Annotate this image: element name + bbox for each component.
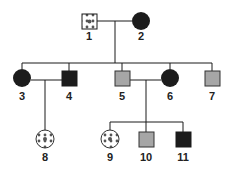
label-3: 3 [19, 90, 25, 102]
individual-1-male-patterned [82, 14, 97, 29]
individual-6-female-affected [161, 69, 179, 87]
mating-line-5-6 [129, 80, 161, 122]
sibship-line-gen3 [110, 122, 183, 132]
mating-line-3-4 [31, 80, 62, 130]
individual-9-female-patterned [101, 130, 119, 148]
individual-8-female-patterned [36, 130, 54, 148]
label-11: 11 [177, 151, 189, 163]
label-5: 5 [119, 90, 125, 102]
label-10: 10 [140, 151, 152, 163]
label-8: 8 [42, 151, 48, 163]
label-4: 4 [66, 90, 73, 102]
label-9: 9 [107, 151, 113, 163]
pedigree-diagram: 1 2 3 4 5 6 7 8 9 10 11 [0, 0, 235, 171]
individual-7-male-gray [205, 71, 220, 86]
individual-4-male-affected [62, 71, 77, 86]
sibship-line-gen2 [22, 63, 212, 71]
label-2: 2 [138, 30, 144, 42]
mating-line-1-2 [97, 21, 132, 63]
label-1: 1 [86, 30, 92, 42]
individual-5-male-gray [115, 71, 130, 86]
individual-11-male-affected [176, 132, 191, 147]
label-7: 7 [209, 90, 215, 102]
individual-3-female-affected [13, 69, 31, 87]
individual-10-male-gray [139, 132, 154, 147]
label-6: 6 [167, 90, 173, 102]
individual-2-female-affected [132, 12, 150, 30]
